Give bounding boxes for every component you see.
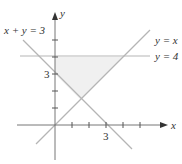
line-label-y-equals-x: y = x (154, 34, 178, 46)
line-label-x-plus-y: x + y = 3 (3, 24, 46, 36)
y-axis-arrow-icon (52, 12, 58, 20)
x-axis-label: x (170, 119, 176, 131)
line-y-equals-x (36, 30, 150, 144)
x-axis-arrow-icon (160, 122, 168, 128)
line-label-y-equals-4: y = 4 (154, 50, 179, 62)
x-tick-label-3: 3 (103, 130, 109, 142)
y-axis-label: y (59, 7, 65, 19)
y-tick-label-3: 3 (44, 68, 50, 80)
graph: y x x + y = 3 y = x y = 4 3 3 (0, 0, 182, 164)
shaded-region (55, 57, 123, 100)
